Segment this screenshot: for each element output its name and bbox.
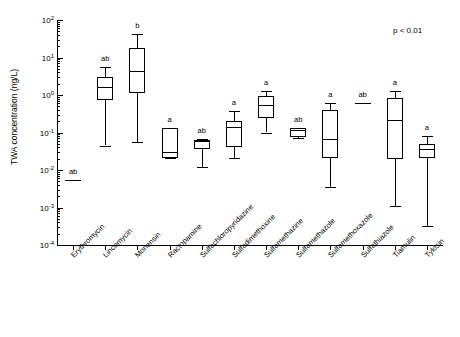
whisker-cap-upper [229,111,240,112]
whisker-cap-lower [132,142,143,143]
whisker-upper [427,136,428,144]
y-tick-minor [57,24,60,25]
median-line [226,127,242,128]
y-tick-minor [57,190,60,191]
y-tick-minor [57,159,60,160]
median-line [97,87,113,88]
whisker-cap-lower [197,167,208,168]
box-iqr [419,144,435,158]
whisker-cap-lower [325,187,336,188]
y-tick-minor [57,134,60,135]
median-line [419,149,435,150]
significance-label: b [135,21,139,30]
whisker-cap-upper [325,103,336,104]
y-tick-minor [57,234,60,235]
significance-label: ab [294,115,302,124]
significance-label: ab [358,90,366,99]
y-tick-minor [57,174,60,175]
whisker-upper [395,91,396,98]
y-tick-minor [57,22,60,23]
significance-label: a [264,78,268,87]
y-tick-minor [57,219,60,220]
y-tick-minor [57,211,60,212]
y-tick-minor [57,176,60,177]
box-iqr [97,77,113,100]
y-tick-minor [57,77,60,78]
whisker-lower [202,149,203,167]
significance-label: a [328,90,332,99]
y-tick-minor [57,185,60,186]
whisker-upper [137,34,138,48]
whisker-lower [395,159,396,206]
whisker-cap-lower [293,138,304,139]
y-tick-minor [57,181,60,182]
y-tick-minor [57,63,60,64]
median-line [162,152,178,153]
whisker-cap-upper [390,91,401,92]
y-tick-minor [57,72,60,73]
whisker-lower [330,158,331,187]
single-value-line [355,103,371,104]
y-tick-minor [57,46,60,47]
box-iqr [258,96,274,118]
significance-label: a [425,123,429,132]
y-tick-minor [57,144,60,145]
y-tick-minor [57,222,60,223]
y-tick-minor [57,141,60,142]
y-tick-minor [57,61,60,62]
y-tick-label: 102 [42,15,54,26]
whisker-cap-lower [100,146,111,147]
y-tick-minor [57,40,60,41]
y-tick-minor [57,136,60,137]
whisker-upper [234,111,235,121]
y-tick-minor [57,31,60,32]
significance-label: ab [198,126,206,135]
significance-label: a [167,115,171,124]
single-value-line [65,180,81,181]
y-tick-minor [57,121,60,122]
y-tick-minor [57,209,60,210]
y-tick-minor [57,69,60,70]
whisker-cap-upper [422,136,433,137]
y-tick-minor [57,97,60,98]
whisker-cap-lower [165,158,176,159]
significance-label: ab [69,167,77,176]
y-tick-minor [57,66,60,67]
y-tick-minor [57,178,60,179]
y-tick-minor [57,28,60,29]
y-tick-major [57,245,63,246]
significance-label: ab [101,54,109,63]
whisker-upper [105,67,106,77]
y-tick-minor [57,115,60,116]
median-line [258,105,274,106]
y-tick-minor [57,213,60,214]
median-line [322,139,338,140]
median-line [129,71,145,72]
y-tick-minor [57,103,60,104]
boxplot-figure: 10210110010-110-210-310-4 TWA concentrat… [0,0,460,337]
y-tick-minor [57,84,60,85]
significance-label: a [393,78,397,87]
y-tick-minor [57,227,60,228]
y-tick-minor [57,99,60,100]
box-iqr [322,110,338,158]
y-tick-minor [57,110,60,111]
median-line [290,130,306,131]
whisker-lower [137,93,138,142]
y-tick-label: 10-1 [40,127,54,138]
y-tick-label: 100 [42,90,54,101]
y-axis-title: TWA concentration (ng/L) [9,17,19,217]
y-tick-label: 101 [42,52,54,63]
y-tick-minor [57,196,60,197]
whisker-cap-lower [390,206,401,207]
box-iqr [162,128,178,158]
whisker-cap-upper [261,91,272,92]
whisker-cap-upper [100,67,111,68]
y-tick-minor [57,101,60,102]
whisker-cap-upper [132,34,143,35]
y-tick-label: 10-2 [40,165,54,176]
y-tick-minor [57,152,60,153]
y-tick-label: 10-4 [40,240,54,251]
whisker-lower [266,118,267,132]
box-iqr [226,121,242,147]
